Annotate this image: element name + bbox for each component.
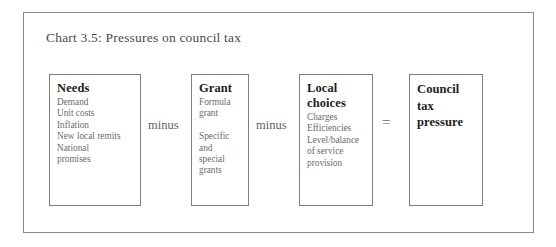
box-needs-line: National <box>57 143 140 154</box>
box-needs-line: Unit costs <box>57 108 140 119</box>
box-needs-lines: Demand Unit costs Inflation New local re… <box>57 97 140 165</box>
box-grant-line: grants <box>199 165 248 176</box>
flow-box-local-choices: Local choices Charges Efficiencies Level… <box>299 74 373 206</box>
box-needs-line: promises <box>57 154 140 165</box>
box-grant-line: and <box>199 143 248 154</box>
flow-box-grant: Grant Formula grant Specific and special… <box>191 74 249 206</box>
box-grant-heading: Grant <box>199 81 248 96</box>
box-needs-line: Demand <box>57 97 140 108</box>
chart-title: Chart 3.5: Pressures on council tax <box>46 30 241 46</box>
box-grant-line: special <box>199 154 248 165</box>
box-grant-lines: Formula grant Specific and special grant… <box>199 97 248 177</box>
flow-box-council-tax-pressure: Council tax pressure <box>409 74 483 206</box>
box-result-heading-line-3: pressure <box>417 114 482 131</box>
operator-equals: = <box>382 114 390 131</box>
box-local-line: of service <box>307 146 372 157</box>
box-grant-line: Formula <box>199 97 248 108</box>
box-local-line: Efficiencies <box>307 123 372 134</box>
flow-diagram: Needs Demand Unit costs Inflation New lo… <box>24 74 535 206</box>
operator-minus-1: minus <box>148 118 179 133</box>
box-grant-line: grant <box>199 108 248 119</box>
box-local-lines: Charges Efficiencies Level/balance of se… <box>307 112 372 169</box>
box-result-heading-line-2: tax <box>417 98 482 115</box>
box-needs-line: Inflation <box>57 120 140 131</box>
flow-box-needs: Needs Demand Unit costs Inflation New lo… <box>49 74 141 206</box>
operator-minus-2: minus <box>256 118 287 133</box>
box-grant-line-spacer <box>199 120 248 131</box>
box-local-heading-line-2: choices <box>307 96 372 111</box>
box-needs-heading: Needs <box>57 81 140 96</box>
box-needs-line: New local remits <box>57 131 140 142</box>
box-local-line: Charges <box>307 112 372 123</box>
box-local-heading-line-1: Local <box>307 81 372 96</box>
box-local-line: provision <box>307 158 372 169</box>
figure-frame: Chart 3.5: Pressures on council tax Need… <box>23 12 534 233</box>
box-grant-line: Specific <box>199 131 248 142</box>
box-result-heading-line-1: Council <box>417 81 482 98</box>
box-local-line: Level/balance <box>307 135 372 146</box>
